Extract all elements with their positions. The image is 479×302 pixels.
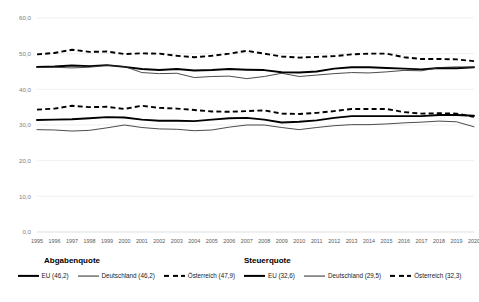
x-axis-tick-label: 1999 — [101, 238, 113, 244]
y-axis-tick-label: 0,0 — [22, 228, 31, 235]
x-axis-tick-label: 1998 — [83, 238, 95, 244]
y-axis-tick-label: 60,0 — [19, 14, 32, 21]
x-axis-tick-label: 2018 — [433, 238, 445, 244]
x-axis-tick-label: 1997 — [66, 238, 78, 244]
legend-swatch-thin-line-icon — [304, 272, 325, 280]
legend-swatch-thin-line-icon — [78, 272, 99, 280]
x-axis-tick-label: 2000 — [118, 238, 130, 244]
x-axis-tick-label: 2019 — [451, 238, 463, 244]
x-axis-tick-label: 2016 — [398, 238, 410, 244]
legend-swatch-dashed-line-icon — [390, 272, 411, 280]
legend-item[interactable]: Österreich (47,9) — [164, 272, 235, 280]
x-axis-tick-label: 2017 — [416, 238, 428, 244]
legend-item-label: EU (32,6) — [268, 273, 295, 279]
legend-item-label: EU (46,2) — [42, 273, 69, 279]
legend-group-title-abgabenquote: Abgabenquote — [44, 256, 100, 265]
x-axis-tick-label: 2013 — [346, 238, 358, 244]
y-axis-tick-label: 40,0 — [19, 86, 32, 93]
y-axis-tick-label: 20,0 — [19, 157, 32, 164]
legend-item[interactable]: Österreich (32,3) — [390, 272, 461, 280]
series-line-steuerquote-0 — [37, 115, 474, 122]
x-axis-tick-label: 2001 — [136, 238, 148, 244]
x-axis-tick-label: 2003 — [171, 238, 183, 244]
x-axis-tick-label: 2015 — [381, 238, 393, 244]
x-axis-tick-label: 2006 — [223, 238, 235, 244]
y-axis-tick-label: 10,0 — [19, 193, 32, 200]
series-line-abgabenquote-1 — [37, 65, 474, 78]
legend-swatch-thick-line-icon — [244, 272, 265, 280]
legend-item[interactable]: Deutschland (46,2) — [78, 272, 155, 280]
x-axis-tick-label: 1996 — [48, 238, 60, 244]
x-axis-tick-label: 1995 — [31, 238, 43, 244]
legend-item-label: Österreich (47,9) — [188, 273, 235, 279]
series-line-steuerquote-1 — [37, 121, 474, 131]
legend-swatch-dashed-line-icon — [164, 272, 185, 280]
legend-item-label: Deutschland (46,2) — [102, 273, 155, 279]
x-axis-tick-label: 2009 — [276, 238, 288, 244]
x-axis-tick-label: 2004 — [188, 238, 200, 244]
x-axis-tick-label: 2011 — [311, 238, 323, 244]
legend-item[interactable]: EU (46,2) — [18, 272, 69, 280]
x-axis-tick-label: 2008 — [258, 238, 270, 244]
x-axis-tick-label: 2012 — [328, 238, 340, 244]
x-axis-tick-label: 2020 — [468, 238, 479, 244]
y-axis-tick-label: 50,0 — [19, 50, 32, 57]
chart-container: 0,010,020,030,040,050,060,01995199619971… — [0, 0, 479, 302]
x-axis-tick-label: 2010 — [293, 238, 305, 244]
series-line-abgabenquote-2 — [37, 50, 474, 61]
y-axis-tick-label: 30,0 — [19, 121, 32, 128]
legend-swatch-thick-line-icon — [18, 272, 39, 280]
legend-item[interactable]: EU (32,6) — [244, 272, 295, 280]
x-axis-tick-label: 2005 — [206, 238, 218, 244]
legend-item[interactable]: Deutschland (29,5) — [304, 272, 381, 280]
caption-strip — [0, 293, 479, 302]
legend-item-label: Österreich (32,3) — [414, 273, 461, 279]
x-axis-tick-label: 2002 — [153, 238, 165, 244]
legend-group-titles: Abgabenquote Steuerquote — [0, 255, 479, 270]
legend-item-label: Deutschland (29,5) — [328, 273, 381, 279]
legend-group-title-steuerquote: Steuerquote — [244, 256, 291, 265]
legend-items-row: EU (46,2)Deutschland (46,2)Österreich (4… — [0, 272, 479, 280]
x-axis-tick-label: 2014 — [363, 238, 375, 244]
x-axis-tick-label: 2007 — [241, 238, 253, 244]
